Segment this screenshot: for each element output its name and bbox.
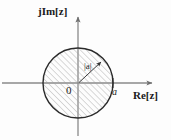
disc-region	[43, 48, 113, 118]
modulus-label-text: |a|	[84, 61, 92, 71]
imaginary-axis-label: jIm[z]	[38, 6, 67, 17]
point-a-label-text: a	[112, 86, 117, 97]
real-axis-label-text: Re[z]	[133, 89, 158, 101]
origin-label: 0	[66, 85, 72, 96]
imaginary-axis-label-text: jIm[z]	[38, 5, 67, 17]
modulus-label: |a|	[84, 62, 92, 71]
point-a-label: a	[112, 87, 117, 97]
origin-label-text: 0	[66, 84, 72, 96]
complex-plane-figure: jIm[z] Re[z] 0 a |a|	[0, 0, 171, 140]
real-axis-label: Re[z]	[133, 90, 158, 101]
